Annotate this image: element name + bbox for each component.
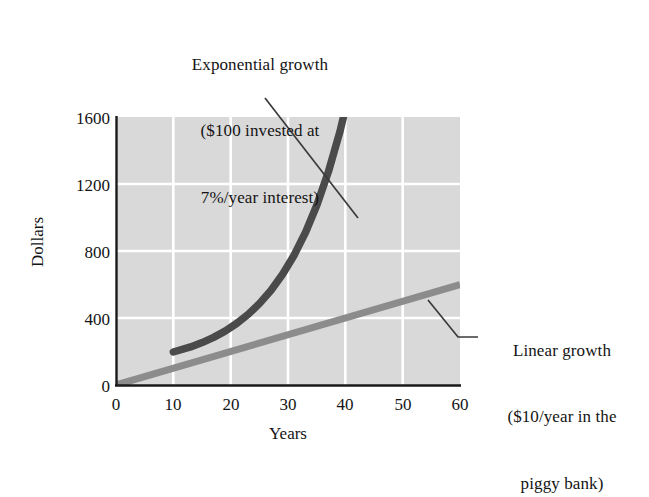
annotation-linear-growth: Linear growth ($10/year in the piggy ban… xyxy=(478,296,646,497)
x-tick-label: 40 xyxy=(325,396,365,413)
x-tick-label: 30 xyxy=(268,396,308,413)
x-tick-label: 0 xyxy=(96,396,136,413)
annotation-exponential-growth: Exponential growth ($100 invested at 7%/… xyxy=(148,10,372,253)
annotation-exponential-line-1: Exponential growth xyxy=(148,54,372,76)
annotation-linear-line-2: ($10/year in the xyxy=(478,406,646,428)
annotation-linear-line-3: piggy bank) xyxy=(478,473,646,495)
annotation-exponential-line-2: ($100 invested at xyxy=(148,120,372,142)
y-axis-title: Dollars xyxy=(28,187,48,297)
x-tick-label: 60 xyxy=(440,396,480,413)
x-tick-label: 10 xyxy=(153,396,193,413)
annotation-linear-line-1: Linear growth xyxy=(478,340,646,362)
x-axis-title: Years xyxy=(226,424,350,444)
annotation-exponential-line-3: 7%/year interest) xyxy=(148,187,372,209)
x-tick-label: 20 xyxy=(211,396,251,413)
x-tick-label: 50 xyxy=(383,396,423,413)
